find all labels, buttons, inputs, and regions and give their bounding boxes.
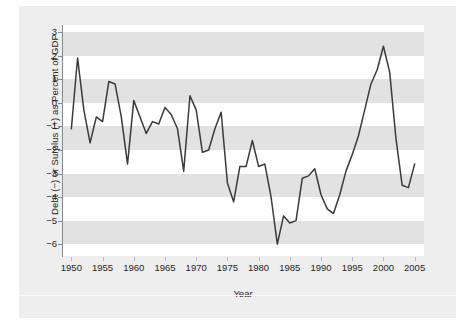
y-axis-tick: [58, 244, 62, 245]
y-axis-tick-label: 2: [23, 50, 57, 61]
x-axis-tick-label: 2005: [395, 262, 435, 273]
x-axis-title: Year: [62, 288, 424, 299]
y-axis-tick: [58, 150, 62, 151]
x-axis-tick: [134, 257, 135, 261]
y-axis-tick: [58, 126, 62, 127]
x-axis-tick: [196, 257, 197, 261]
data-series-line: [62, 25, 424, 256]
x-axis-tick: [71, 257, 72, 261]
y-axis-tick: [58, 32, 62, 33]
y-axis-tick: [58, 56, 62, 57]
y-axis-tick-label: 0: [23, 97, 57, 108]
y-axis-tick-label: −2: [23, 144, 57, 155]
x-axis-tick: [290, 257, 291, 261]
x-axis-tick: [103, 257, 104, 261]
y-axis-tick-label: −4: [23, 191, 57, 202]
y-axis-tick-label: 3: [23, 26, 57, 37]
y-axis-tick: [58, 197, 62, 198]
x-axis-tick: [415, 257, 416, 261]
plot-area: [62, 25, 424, 256]
x-axis-tick: [352, 257, 353, 261]
x-axis-tick: [227, 257, 228, 261]
y-axis-tick-label: −1: [23, 120, 57, 131]
y-axis-tick-label: −6: [23, 238, 57, 249]
y-axis-line: [62, 25, 63, 257]
y-axis-tick: [58, 103, 62, 104]
series-polyline: [71, 46, 414, 244]
chart-figure: Debt (−) or Surplus (+) as Percent of GD…: [19, 6, 456, 318]
y-axis-tick: [58, 174, 62, 175]
y-axis-tick-label: −5: [23, 215, 57, 226]
y-axis-tick: [58, 79, 62, 80]
x-axis-tick: [259, 257, 260, 261]
x-axis-tick: [165, 257, 166, 261]
x-axis-tick: [383, 257, 384, 261]
x-axis-tick: [321, 257, 322, 261]
figure-divider: [19, 295, 456, 296]
y-axis-tick-label: −3: [23, 168, 57, 179]
y-axis-tick-label: 1: [23, 73, 57, 84]
y-axis-tick: [58, 221, 62, 222]
